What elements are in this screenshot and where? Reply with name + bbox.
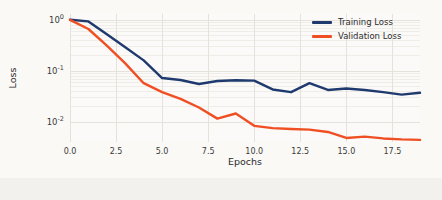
legend-color-swatch xyxy=(312,21,332,24)
x-tick-label: 5.0 xyxy=(156,147,169,156)
legend-color-swatch xyxy=(312,35,332,38)
legend-item[interactable]: Validation Loss xyxy=(312,31,401,41)
x-tick-label: 10.0 xyxy=(245,147,263,156)
chart-figure: 10010-110-2 0.02.55.07.510.012.515.017.5… xyxy=(0,0,442,200)
legend-item[interactable]: Training Loss xyxy=(312,17,401,27)
y-tick-label: 10-1 xyxy=(47,66,64,76)
x-tick-label: 2.5 xyxy=(110,147,123,156)
chart-legend: Training LossValidation Loss xyxy=(312,17,401,41)
legend-label: Validation Loss xyxy=(338,31,401,41)
x-tick-label: 12.5 xyxy=(291,147,309,156)
x-tick-label: 0.0 xyxy=(64,147,77,156)
legend-label: Training Loss xyxy=(338,17,393,27)
figure-bottom-margin xyxy=(0,178,442,200)
x-tick-label: 7.5 xyxy=(202,147,215,156)
x-tick-label: 17.5 xyxy=(383,147,401,156)
y-tick-label: 100 xyxy=(49,15,64,25)
x-axis-label: Epochs xyxy=(70,156,420,167)
y-tick-label: 10-2 xyxy=(47,117,64,127)
y-axis-label: Loss xyxy=(7,68,18,89)
x-tick-label: 15.0 xyxy=(337,147,355,156)
